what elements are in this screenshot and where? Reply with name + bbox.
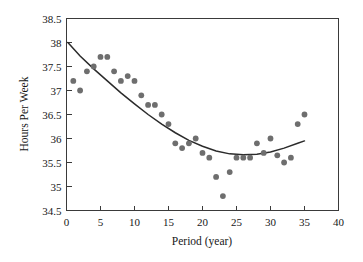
y-tick-label: 38.5 — [42, 13, 62, 25]
data-point — [179, 145, 185, 151]
data-point — [254, 140, 260, 146]
y-axis-title: Hours Per Week — [18, 76, 30, 151]
data-point — [200, 150, 206, 156]
data-point — [132, 78, 138, 84]
x-tick-label: 10 — [129, 216, 141, 228]
x-tick-label: 5 — [98, 216, 104, 228]
data-point — [172, 140, 178, 146]
data-point — [138, 92, 144, 98]
x-tick-label: 0 — [64, 216, 70, 228]
data-point — [206, 155, 212, 161]
data-point — [98, 54, 104, 60]
data-point — [234, 155, 240, 161]
data-point — [220, 193, 226, 199]
data-point — [118, 78, 124, 84]
y-tick-label: 35.5 — [42, 157, 62, 169]
data-point — [166, 121, 172, 127]
data-point — [70, 78, 76, 84]
data-point — [295, 121, 301, 127]
y-tick-label: 36.5 — [42, 109, 62, 121]
data-point — [159, 112, 165, 118]
x-tick-label: 30 — [265, 216, 277, 228]
data-point — [288, 155, 294, 161]
y-tick-label: 35 — [51, 181, 63, 193]
x-axis-title: Period (year) — [172, 235, 233, 248]
data-point — [91, 64, 97, 70]
data-point — [125, 73, 131, 79]
y-tick-label: 34.5 — [42, 205, 62, 217]
data-point — [240, 155, 246, 161]
data-point — [281, 160, 287, 166]
data-point — [302, 112, 308, 118]
data-point — [274, 152, 280, 158]
y-tick-label: 38 — [51, 37, 63, 49]
data-point — [145, 102, 151, 108]
x-tick-label: 40 — [333, 216, 345, 228]
data-point — [186, 140, 192, 146]
data-point — [104, 54, 110, 60]
y-tick-label: 37 — [51, 85, 63, 97]
y-tick-label: 37.5 — [42, 61, 62, 73]
data-point — [77, 88, 83, 94]
data-point — [111, 68, 117, 74]
x-tick-label: 15 — [163, 216, 175, 228]
data-point — [268, 136, 274, 142]
data-point — [247, 155, 253, 161]
data-point — [261, 150, 267, 156]
chart-container: 34.53535.53636.53737.53838.5 05101520253… — [0, 0, 363, 262]
data-point — [152, 102, 158, 108]
y-tick-label: 36 — [51, 133, 63, 145]
scatter-plot: 34.53535.53636.53737.53838.5 05101520253… — [0, 0, 363, 262]
data-point — [193, 136, 199, 142]
data-point — [227, 169, 233, 175]
data-point — [84, 68, 90, 74]
x-tick-label: 20 — [197, 216, 209, 228]
x-tick-label: 25 — [231, 216, 243, 228]
data-point — [213, 174, 219, 180]
x-tick-label: 35 — [299, 216, 311, 228]
